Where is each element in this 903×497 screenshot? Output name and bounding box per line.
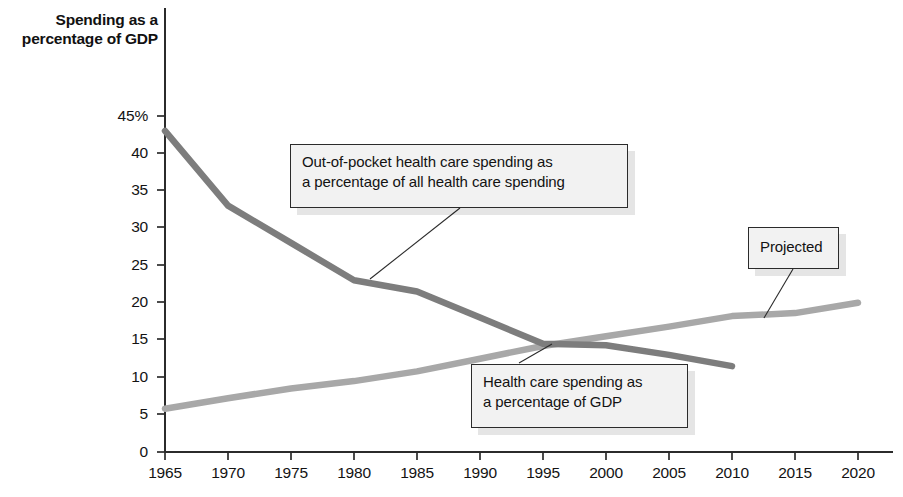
- y-axis-ticks: [157, 116, 165, 452]
- x-tick-label: 1985: [386, 464, 448, 482]
- annotation-out-of-pocket: Out-of-pocket health care spending as a …: [290, 144, 628, 208]
- y-tick-label: 0: [92, 443, 148, 461]
- leader-line-out-of-pocket: [370, 208, 460, 279]
- y-tick-label: 40: [92, 144, 148, 162]
- x-tick-label: 1980: [323, 464, 385, 482]
- x-tick-label: 1965: [134, 464, 196, 482]
- x-tick-label: 1995: [512, 464, 574, 482]
- x-tick-label: 2010: [701, 464, 763, 482]
- x-tick-label: 2015: [764, 464, 826, 482]
- y-tick-label: 35: [92, 181, 148, 199]
- x-tick-label: 2005: [638, 464, 700, 482]
- x-tick-label: 2020: [827, 464, 889, 482]
- x-tick-label: 2000: [575, 464, 637, 482]
- y-tick-label: 25: [92, 256, 148, 274]
- x-tick-label: 1975: [260, 464, 322, 482]
- y-tick-label: 5: [92, 405, 148, 423]
- y-tick-label: 20: [92, 293, 148, 311]
- chart-container: Spending as a percentage of GDP: [0, 0, 903, 497]
- x-tick-label: 1970: [197, 464, 259, 482]
- x-tick-label: 1990: [449, 464, 511, 482]
- annotation-projected: Projected: [748, 227, 839, 269]
- y-tick-label: 30: [92, 218, 148, 236]
- annotation-health-care-gdp: Health care spending as a percentage of …: [471, 364, 688, 428]
- x-axis-ticks: [165, 452, 858, 460]
- y-tick-label: 15: [92, 330, 148, 348]
- y-tick-label: 10: [92, 368, 148, 386]
- y-tick-label: 45%: [92, 107, 148, 125]
